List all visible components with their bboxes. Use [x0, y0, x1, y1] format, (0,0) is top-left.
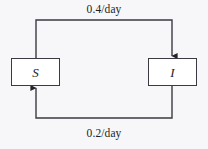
infected-compartment-label: I [170, 66, 174, 79]
infection-rate-label: 0.4/day [0, 3, 208, 15]
susceptible-compartment-label: S [32, 66, 39, 79]
recovery-rate-label: 0.2/day [0, 127, 208, 139]
infected-compartment: I [148, 58, 197, 86]
recovery-flow-arrow [36, 86, 172, 118]
flow-diagram: S I 0.4/day 0.2/day [0, 0, 208, 149]
infection-flow-arrow [36, 20, 172, 58]
susceptible-compartment: S [11, 58, 60, 86]
